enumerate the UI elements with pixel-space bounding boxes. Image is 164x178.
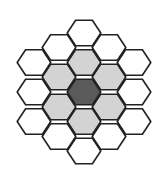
hex-cell-center [67,79,101,105]
hex-grid-diagram [0,0,164,178]
hex-cells [17,20,151,164]
